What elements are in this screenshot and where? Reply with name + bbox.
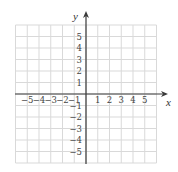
y-tick-label: −4	[69, 135, 82, 145]
x-tick-label: −2	[56, 95, 69, 105]
y-tick-label: −2	[69, 112, 82, 122]
y-tick-label: 2	[77, 66, 82, 76]
x-tick-label: 4	[130, 95, 135, 105]
x-axis-label: x	[165, 96, 171, 108]
x-tick-label: −5	[21, 95, 34, 105]
y-tick-label: −3	[69, 124, 82, 134]
x-tick-label: 3	[119, 95, 124, 105]
y-tick-label: 5	[77, 32, 82, 42]
y-tick-label: 3	[77, 55, 82, 65]
y-axis-label: y	[72, 10, 78, 22]
x-tick-label: −3	[44, 95, 57, 105]
x-tick-label: −4	[33, 95, 46, 105]
coordinate-plane: x y −5−4−3−2−112345 54321−1−2−3−4−5	[0, 0, 178, 172]
y-tick-label: −1	[69, 101, 82, 111]
x-tick-labels: −5−4−3−2−112345	[21, 95, 147, 105]
axes: x y	[15, 10, 171, 164]
y-tick-label: −5	[69, 147, 82, 157]
x-tick-label: 2	[107, 95, 112, 105]
y-tick-label: 4	[77, 43, 82, 53]
x-tick-label: 5	[142, 95, 147, 105]
y-tick-label: 1	[77, 78, 82, 88]
x-tick-label: 1	[95, 95, 100, 105]
